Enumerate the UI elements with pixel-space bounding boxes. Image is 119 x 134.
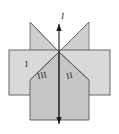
region-label-III: III <box>36 69 48 81</box>
physics-diagram: I I III II <box>0 0 119 134</box>
region-label-I: I <box>25 59 28 69</box>
figure-container: I I III II <box>0 0 119 134</box>
